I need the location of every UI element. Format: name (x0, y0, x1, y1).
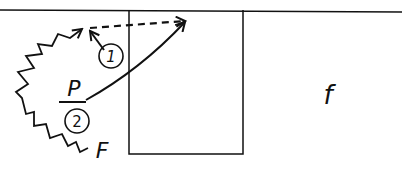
label-2: 2 (72, 113, 82, 131)
label-f: f (323, 80, 336, 110)
label-1: 1 (106, 48, 116, 66)
top-boundary-line (0, 10, 402, 12)
box-outline (129, 10, 243, 154)
label-F: F (96, 138, 109, 163)
point-label-P: P (67, 76, 81, 101)
diagram-canvas: 1 P 2 F f (0, 0, 411, 176)
dashed-arrow (90, 21, 185, 28)
